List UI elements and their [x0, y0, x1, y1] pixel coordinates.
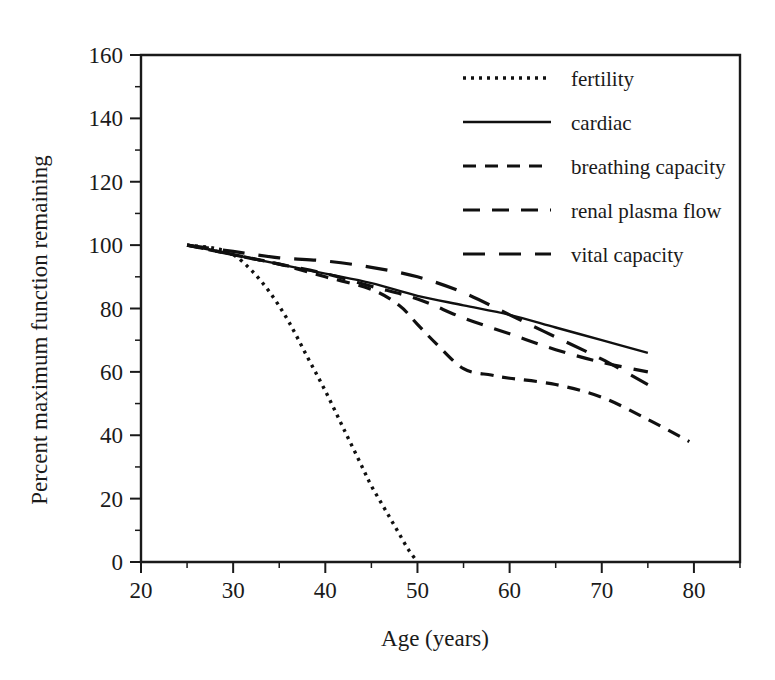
x-tick-label: 20	[130, 578, 153, 603]
x-tick-label: 40	[314, 578, 337, 603]
y-tick-label: 100	[89, 233, 124, 258]
legend-label: fertility	[571, 67, 634, 91]
figure-container: 20304050607080 020406080100120140160 fer…	[0, 0, 775, 680]
x-tick-label: 50	[406, 578, 429, 603]
legend-label: vital capacity	[571, 243, 684, 267]
legend-label: renal plasma flow	[571, 199, 722, 223]
y-tick-label: 80	[100, 297, 123, 322]
x-axis-title: Age (years)	[381, 626, 489, 651]
y-tick-label: 120	[89, 170, 124, 195]
line-chart: 20304050607080 020406080100120140160 fer…	[0, 0, 775, 680]
legend-label: breathing capacity	[571, 155, 726, 179]
x-tick-label: 70	[590, 578, 613, 603]
legend-label: cardiac	[571, 111, 632, 135]
y-tick-label: 60	[100, 360, 123, 385]
y-tick-label: 40	[100, 423, 123, 448]
chart-background	[0, 0, 775, 680]
y-tick-label: 160	[89, 43, 124, 68]
y-tick-label: 0	[112, 550, 124, 575]
x-tick-label: 60	[498, 578, 521, 603]
y-axis-title: Percent maximum function remaining	[27, 155, 52, 505]
x-tick-label: 30	[222, 578, 245, 603]
x-tick-label: 80	[682, 578, 705, 603]
y-tick-label: 20	[100, 487, 123, 512]
y-tick-label: 140	[89, 106, 124, 131]
